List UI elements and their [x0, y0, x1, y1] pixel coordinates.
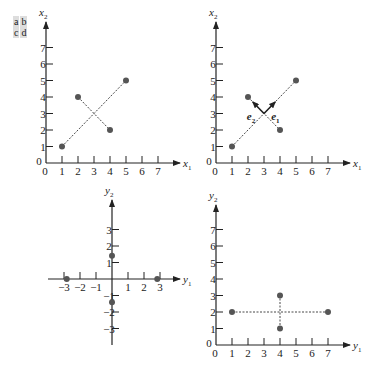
x-tick-label: 5 — [293, 347, 299, 359]
x-tick-label: 5 — [293, 165, 299, 177]
y-tick-label: 7 — [210, 224, 216, 236]
x-tick-label: 6 — [309, 165, 315, 177]
data-point — [59, 144, 65, 150]
x-tick-label: 0 — [212, 347, 218, 359]
axis-label: y1 — [352, 339, 362, 354]
axis-label: y2 — [104, 184, 114, 199]
y-tick-label: 5 — [40, 75, 46, 87]
y-tick-label: 7 — [210, 42, 216, 54]
x-tick-label: 5 — [123, 165, 129, 177]
figure: 0123456701234567x1x2 0123456701234567x1x… — [0, 0, 375, 370]
axis-label: x1 — [352, 157, 362, 172]
axis-label: x2 — [38, 6, 48, 21]
eigenvector-e2 — [253, 102, 264, 114]
data-point — [75, 94, 81, 100]
y-tick-label: 3 — [106, 224, 112, 236]
axis-label: y1 — [182, 273, 192, 288]
data-point — [229, 309, 235, 315]
x-tick-label: 7 — [325, 347, 331, 359]
x-tick-label: 6 — [139, 165, 145, 177]
x-tick-label: 1 — [59, 165, 65, 177]
x-tick-label: −1 — [90, 281, 102, 293]
x-tick-label: 6 — [309, 347, 315, 359]
x-tick-label: 2 — [245, 347, 251, 359]
data-point — [325, 309, 331, 315]
y-tick-label: 3 — [210, 290, 216, 302]
data-point — [107, 127, 113, 133]
vector-label: e2 — [247, 110, 256, 125]
y-tick-label: 1 — [210, 323, 216, 335]
y-tick-label: 2 — [210, 306, 216, 318]
y-tick-label: 0 — [206, 155, 212, 167]
y-tick-label: 6 — [210, 240, 216, 252]
axis-label: x2 — [208, 6, 218, 21]
data-point — [229, 144, 235, 150]
y-tick-label: 7 — [40, 42, 46, 54]
y-tick-label: −2 — [103, 306, 115, 318]
y-tick-label: 6 — [210, 58, 216, 70]
data-point — [123, 78, 129, 84]
y-tick-label: 6 — [40, 58, 46, 70]
x-tick-label: 2 — [141, 281, 147, 293]
x-tick-label: 7 — [155, 165, 161, 177]
x-tick-label: 1 — [229, 347, 235, 359]
axis-label: y2 — [208, 189, 218, 204]
data-point — [293, 78, 299, 84]
plot-a: 0123456701234567x1x2 — [36, 6, 192, 177]
x-tick-label: 7 — [325, 165, 331, 177]
x-tick-label: 4 — [277, 165, 283, 177]
plot-d: 0123456701234567y1y2 — [206, 189, 362, 359]
x-tick-label: 3 — [261, 165, 267, 177]
y-tick-label: 0 — [36, 155, 42, 167]
x-tick-label: 3 — [261, 347, 267, 359]
plot-b: 0123456701234567x1x2e1e2 — [206, 6, 362, 177]
y-tick-label: 1 — [210, 141, 216, 153]
y-tick-label: 2 — [40, 124, 46, 136]
y-tick-label: 2 — [210, 124, 216, 136]
data-point — [245, 94, 251, 100]
x-tick-label: 3 — [157, 281, 163, 293]
y-tick-label: 5 — [210, 257, 216, 269]
y-tick-label: 5 — [210, 75, 216, 87]
x-tick-label: −3 — [58, 281, 70, 293]
y-tick-label: 4 — [40, 91, 46, 103]
y-tick-label: 2 — [106, 240, 112, 252]
y-tick-label: 4 — [210, 273, 216, 285]
axis-label: x1 — [182, 157, 192, 172]
y-tick-label: 1 — [40, 141, 46, 153]
y-tick-label: 0 — [206, 337, 212, 349]
plot-c: −3−2−1123−3−2−1123y1y2 — [48, 184, 192, 345]
data-point — [277, 127, 283, 133]
y-tick-label: 3 — [210, 108, 216, 120]
data-point — [109, 253, 115, 259]
y-tick-label: 3 — [40, 108, 46, 120]
y-tick-label: −3 — [103, 323, 115, 335]
x-tick-label: 1 — [125, 281, 131, 293]
x-tick-label: −2 — [74, 281, 86, 293]
x-tick-label: 2 — [245, 165, 251, 177]
x-tick-label: 2 — [75, 165, 81, 177]
x-tick-label: 1 — [229, 165, 235, 177]
data-point — [154, 276, 160, 282]
y-tick-label: 4 — [210, 91, 216, 103]
x-tick-label: 4 — [107, 165, 113, 177]
x-tick-label: 4 — [277, 347, 283, 359]
data-point — [277, 326, 283, 332]
data-point — [64, 276, 70, 282]
data-point — [277, 293, 283, 299]
x-tick-label: 0 — [42, 165, 48, 177]
x-tick-label: 3 — [91, 165, 97, 177]
x-tick-label: 0 — [212, 165, 218, 177]
data-point — [109, 299, 115, 305]
